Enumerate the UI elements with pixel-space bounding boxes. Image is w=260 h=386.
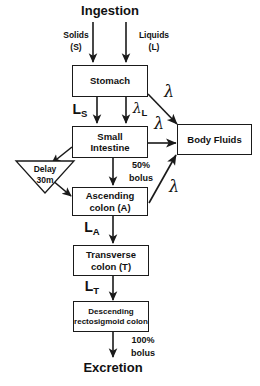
rate-label-lambda-l: λL bbox=[126, 100, 154, 116]
bolus-100-word: bolus bbox=[120, 348, 166, 358]
node-descending-colon-line2: rectosigmoid colon bbox=[74, 317, 148, 326]
rate-label-lambda-small-intestine: λ bbox=[148, 115, 170, 133]
node-ascending-colon-line2: colon (A) bbox=[89, 202, 130, 213]
input-liquids-label: Liquids bbox=[126, 31, 182, 41]
node-body-fluids[interactable]: Body Fluids bbox=[177, 124, 252, 155]
input-solids-symbol: (S) bbox=[48, 43, 104, 53]
node-transverse-colon-line2: colon (T) bbox=[91, 261, 131, 272]
node-stomach[interactable]: Stomach bbox=[72, 65, 148, 97]
rate-label-la-sub: A bbox=[93, 226, 100, 237]
bolus-100-percent: 100% bbox=[120, 335, 166, 345]
rate-label-lt: LT bbox=[78, 278, 106, 294]
ingestion-label: Ingestion bbox=[50, 4, 170, 19]
node-delay[interactable]: Delay 30m bbox=[16, 161, 74, 194]
rate-label-ls-sub: S bbox=[81, 108, 87, 119]
rate-label-lambda-ascending: λ bbox=[163, 178, 185, 196]
rate-label-lambda-l-base: λ bbox=[133, 100, 142, 116]
rate-label-ls: LS bbox=[66, 101, 94, 117]
rate-label-lambda-stomach: λ bbox=[158, 83, 180, 101]
input-solids-label: Solids bbox=[48, 31, 104, 41]
input-liquids-symbol: (L) bbox=[126, 43, 182, 53]
node-small-intestine-line1: Small bbox=[97, 131, 122, 142]
node-descending-rectosigmoid-colon[interactable]: Descending rectosigmoid colon bbox=[73, 301, 149, 332]
node-small-intestine[interactable]: Small Intestine bbox=[72, 126, 148, 158]
node-stomach-label: Stomach bbox=[90, 75, 130, 86]
excretion-label: Excretion bbox=[53, 361, 173, 376]
rate-label-la: LA bbox=[78, 219, 106, 235]
rate-label-lambda-l-sub: L bbox=[142, 107, 148, 118]
node-small-intestine-line2: Intestine bbox=[90, 142, 129, 153]
node-transverse-colon[interactable]: Transverse colon (T) bbox=[73, 245, 149, 276]
gi-tract-diagram: Ingestion Solids (S) Liquids (L) Stomach… bbox=[0, 0, 260, 386]
node-delay-line1: Delay bbox=[16, 165, 74, 175]
bolus-50-word: bolus bbox=[118, 173, 164, 183]
node-ascending-colon[interactable]: Ascending colon (A) bbox=[72, 187, 148, 216]
rate-label-lt-sub: T bbox=[93, 285, 99, 296]
node-ascending-colon-line1: Ascending bbox=[86, 190, 135, 201]
node-body-fluids-label: Body Fluids bbox=[187, 134, 241, 145]
rate-label-ls-base: L bbox=[73, 101, 82, 117]
node-transverse-colon-line1: Transverse bbox=[86, 249, 136, 260]
bolus-50-percent: 50% bbox=[118, 160, 164, 170]
node-descending-colon-line1: Descending bbox=[88, 307, 133, 316]
node-delay-line2: 30m bbox=[16, 176, 74, 186]
rate-label-la-base: L bbox=[84, 219, 93, 235]
